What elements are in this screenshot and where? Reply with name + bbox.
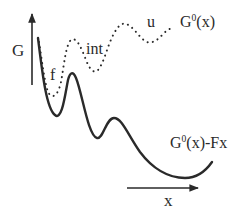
curve-label-g0-base: G (180, 13, 192, 30)
energy-landscape-diagram: G x f int u G0(x) G0(x)-Fx (0, 0, 245, 213)
state-label-unfolded: u (147, 14, 155, 30)
diagram-canvas (0, 0, 245, 213)
g0-minus-fx-solid-curve (38, 38, 212, 178)
curve-label-g0-minus-fx: G0(x)-Fx (170, 135, 227, 151)
curve-label-g0fx-rest: (x)-Fx (186, 134, 227, 151)
g0-dotted-curve (39, 24, 172, 96)
x-axis-label: x (164, 192, 173, 209)
curve-label-g0: G0(x) (180, 14, 215, 30)
curve-label-g0-rest: (x) (196, 13, 215, 30)
state-label-folded: f (50, 67, 55, 83)
curve-label-g0-sup: 0 (192, 12, 197, 23)
state-label-intermediate: int (86, 41, 103, 57)
curve-label-g0fx-sup: 0 (182, 133, 187, 144)
curve-label-g0fx-base: G (170, 134, 182, 151)
y-axis-label: G (12, 42, 24, 59)
